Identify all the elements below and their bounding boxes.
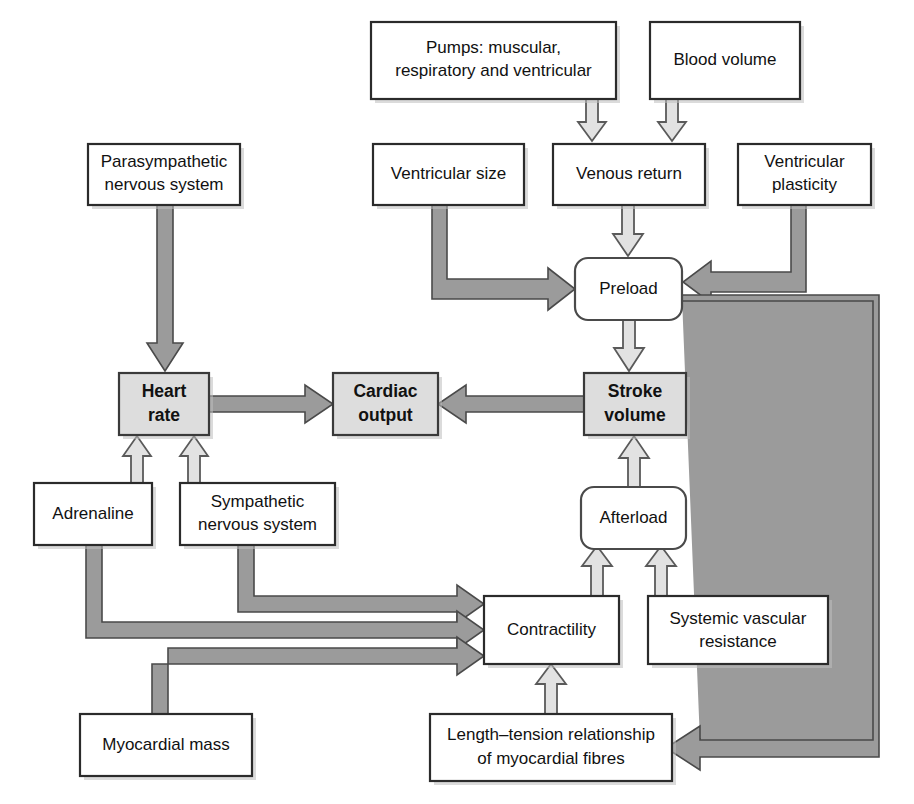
node-preload-label: Preload xyxy=(599,279,658,298)
node-cardiac-output-label-line-1: Cardiac xyxy=(353,381,417,401)
edge-pumps-to-venous-return xyxy=(578,99,606,141)
node-contractility[interactable]: Contractility xyxy=(484,596,619,664)
node-venous-return-label: Venous return xyxy=(576,164,682,183)
node-heart-rate-label-line-2: rate xyxy=(148,405,180,425)
node-adrenaline[interactable]: Adrenaline xyxy=(34,483,152,545)
node-ventricular-plasticity-label-line-1: Ventricular xyxy=(764,152,845,171)
edge-contractility-to-afterload xyxy=(582,546,612,596)
node-stroke-volume-label-line-2: volume xyxy=(604,405,666,425)
node-ventricular-plasticity[interactable]: Ventricular plasticity xyxy=(738,144,871,205)
node-preload[interactable]: Preload xyxy=(575,258,682,320)
node-parasympathetic-nervous-system[interactable]: Parasympathetic nervous system xyxy=(88,144,240,205)
node-stroke-volume[interactable]: Stroke volume xyxy=(584,373,686,435)
node-afterload-label: Afterload xyxy=(599,508,667,527)
edge-preload-to-stroke-volume xyxy=(614,320,644,371)
edge-preload-to-length-tension xyxy=(666,295,879,770)
node-systemic-vascular-resistance-label-line-1: Systemic vascular xyxy=(670,609,807,628)
node-blood-volume-label: Blood volume xyxy=(673,50,776,69)
node-venous-return[interactable]: Venous return xyxy=(553,144,705,205)
node-myocardial-mass-label: Myocardial mass xyxy=(102,735,230,754)
edge-parasympathetic-to-heart-rate xyxy=(147,205,183,371)
node-parasympathetic-label-line-2: nervous system xyxy=(104,175,223,194)
edge-adrenaline-to-heart-rate xyxy=(123,436,151,483)
node-cardiac-output[interactable]: Cardiac output xyxy=(333,373,438,435)
edge-blood-volume-to-venous-return xyxy=(658,99,686,141)
node-sympathetic-label-line-2: nervous system xyxy=(198,515,317,534)
node-heart-rate-label-line-1: Heart xyxy=(142,381,187,401)
edge-ventricular-plasticity-to-preload xyxy=(683,205,806,303)
node-pumps[interactable]: Pumps: muscular, respiratory and ventric… xyxy=(371,22,616,99)
node-length-tension-relationship[interactable]: Length–tension relationship of myocardia… xyxy=(430,714,672,781)
node-heart-rate[interactable]: Heart rate xyxy=(119,373,209,435)
node-systemic-vascular-resistance-label-line-2: resistance xyxy=(699,632,776,651)
node-systemic-vascular-resistance[interactable]: Systemic vascular resistance xyxy=(648,596,828,664)
edge-systemic-vascular-resistance-to-afterload xyxy=(646,546,676,596)
edge-heart-rate-to-cardiac-output xyxy=(209,385,333,423)
node-adrenaline-label: Adrenaline xyxy=(52,504,133,523)
node-contractility-label: Contractility xyxy=(507,620,596,639)
edge-sympathetic-to-heart-rate xyxy=(180,436,208,483)
edge-stroke-volume-to-cardiac-output xyxy=(438,385,584,423)
edge-afterload-to-stroke-volume xyxy=(619,436,649,487)
edge-myocardial-mass-to-contractility xyxy=(152,637,484,714)
node-afterload[interactable]: Afterload xyxy=(581,487,686,549)
node-ventricular-size[interactable]: Ventricular size xyxy=(373,144,524,205)
node-parasympathetic-label-line-1: Parasympathetic xyxy=(101,152,228,171)
edge-ventricular-size-to-preload xyxy=(432,205,575,310)
edge-sympathetic-to-contractility xyxy=(238,545,484,623)
cardiac-output-flow-diagram: Pumps: muscular, respiratory and ventric… xyxy=(0,0,914,804)
node-length-tension-label-line-1: Length–tension relationship xyxy=(447,725,655,744)
node-pumps-label-line-1: Pumps: muscular, xyxy=(426,38,561,57)
node-ventricular-plasticity-label-line-2: plasticity xyxy=(772,175,838,194)
node-blood-volume[interactable]: Blood volume xyxy=(650,22,800,99)
node-sympathetic-label-line-1: Sympathetic xyxy=(211,492,305,511)
node-ventricular-size-label: Ventricular size xyxy=(391,164,506,183)
node-sympathetic-nervous-system[interactable]: Sympathetic nervous system xyxy=(180,483,335,545)
node-myocardial-mass[interactable]: Myocardial mass xyxy=(80,714,252,776)
node-stroke-volume-label-line-1: Stroke xyxy=(608,381,663,401)
edge-length-tension-to-contractility xyxy=(536,664,566,714)
node-cardiac-output-label-line-2: output xyxy=(358,405,413,425)
node-pumps-label-line-2: respiratory and ventricular xyxy=(395,61,592,80)
edge-venous-return-to-preload xyxy=(613,205,643,256)
node-length-tension-label-line-2: of myocardial fibres xyxy=(477,749,624,768)
